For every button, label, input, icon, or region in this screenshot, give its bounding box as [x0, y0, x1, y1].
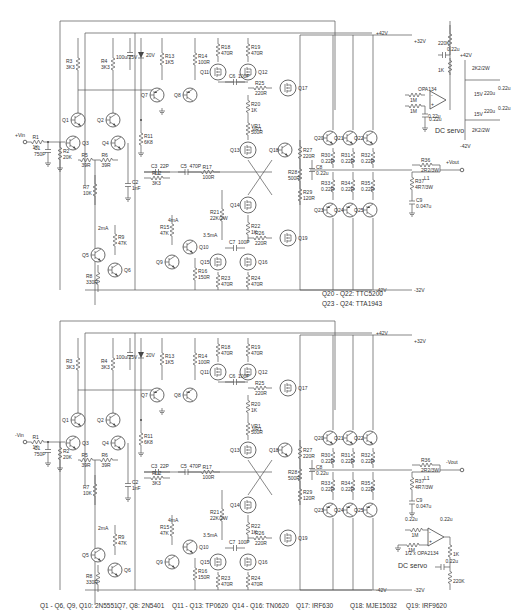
- capacitor-value: 100P: [238, 539, 250, 545]
- resistor-ref: R25: [255, 380, 264, 386]
- resistor-value: 6K8: [144, 139, 153, 145]
- resistor-value: 500R: [288, 175, 300, 181]
- resistor-ref: R36: [421, 157, 430, 163]
- device-note: Q20 - Q22: TTC5200: [322, 290, 383, 298]
- capacitor-ref: C6: [229, 73, 236, 79]
- resistor-value: 1K5: [165, 359, 174, 365]
- transistor-ref: Q24: [334, 207, 344, 213]
- opamp-label: 1/2 x OPA2134: [405, 550, 439, 556]
- terminal-icon[interactable]: [23, 140, 27, 144]
- pot-ref: VR1: [252, 126, 262, 132]
- current-label: 3.5mA: [203, 232, 218, 238]
- resistor-ref: R12: [152, 470, 161, 476]
- resistor-value: 20K: [63, 154, 73, 160]
- mosfet-ref: Q13: [230, 447, 240, 453]
- resistor-value: 470R: [251, 50, 263, 56]
- resistor-ref: R17: [203, 164, 212, 170]
- device-note: Q11 - Q13: TP0620: [172, 602, 229, 610]
- dc-servo-label: DC servo: [435, 127, 464, 134]
- capacitor-value: 100u/25V: [116, 54, 138, 60]
- resistor-value: 0.22R: [341, 486, 355, 492]
- mosfet-ref: Q12: [258, 69, 268, 75]
- cap-value: 0.22u: [440, 516, 453, 522]
- resistor-value: 39R: [102, 162, 112, 168]
- capacitor-value: 0.047u: [416, 503, 432, 509]
- inductor-ref: L1: [424, 475, 430, 481]
- zener-value: 15V: [474, 111, 484, 117]
- transistor-ref: Q23: [314, 207, 324, 213]
- resistor-value: 470R: [221, 581, 233, 587]
- transistor-ref: Q20: [314, 135, 324, 141]
- resistor-value: 220K: [453, 578, 465, 584]
- transistor-ref: Q23: [314, 507, 324, 513]
- mosfet-ref: Q16: [258, 559, 268, 565]
- transistor-ref: Q10: [199, 544, 209, 550]
- resistor-value: 470R: [251, 350, 263, 356]
- resistor-value: 0.22R: [361, 158, 375, 164]
- resistor-value: 4R7/3W: [415, 184, 433, 190]
- input-label: -Vin: [15, 432, 24, 438]
- resistor-value: 10K: [83, 490, 93, 496]
- capacitor-value: 100P: [238, 239, 250, 245]
- mosfet-ref: Q11: [200, 69, 209, 75]
- schematic: +42V-42V+32V-32V+VinR11KC1750PR220KQ1Q2Q…: [0, 0, 522, 616]
- transistor-ref: Q9: [156, 559, 163, 565]
- transistor-ref: Q22: [354, 135, 364, 141]
- resistor-value: 100R: [198, 59, 210, 65]
- dc-servo-bottom: 0.22u0.22u1M1M-+1K1/2 x OPA2134DC servo0…: [395, 516, 465, 590]
- transistor-ref: Q4: [102, 440, 109, 446]
- plus: +: [429, 538, 432, 544]
- output-label: +Vout: [446, 159, 460, 165]
- resistor-value: 22K/2W: [210, 215, 228, 221]
- resistor-value: 470R: [251, 281, 263, 287]
- transistor-ref: Q7: [141, 392, 148, 398]
- resistor-value: 150R: [198, 574, 210, 580]
- capacitor-value: 1nF: [132, 485, 141, 491]
- resistor-value: 1K5: [165, 59, 174, 65]
- capacitor-value: 0.22u: [447, 46, 460, 52]
- resistor-value: 3K3: [101, 64, 110, 70]
- capacitor-value: 470P: [190, 463, 202, 469]
- output-label: -Vout: [446, 459, 458, 465]
- resistor-value: 39R: [82, 162, 92, 168]
- mosfet-ref: Q13: [230, 147, 240, 153]
- resistor-value: 0.22R: [361, 458, 375, 464]
- terminal-icon[interactable]: [460, 468, 464, 472]
- mosfet-ref: Q17: [298, 385, 308, 391]
- transistor-ref: Q1: [62, 117, 69, 123]
- terminal-icon[interactable]: [460, 168, 464, 172]
- transistor-ref: Q18: [269, 147, 279, 153]
- resistor-value: 1K: [453, 551, 460, 557]
- resistor-value: 20K: [63, 454, 73, 460]
- resistor-value: 10K: [83, 190, 93, 196]
- mosfet-ref: Q14: [230, 202, 240, 208]
- device-note: Q18: MJE15032: [350, 602, 397, 610]
- resistor-value: 100R: [203, 474, 215, 480]
- cap-value: 0.22u: [498, 85, 511, 91]
- rail-neg-out-label: -32V: [414, 287, 425, 293]
- resistor-value: 220R: [255, 540, 267, 546]
- resistor-value: 3K3: [66, 364, 75, 370]
- resistor-value: 1M: [412, 532, 419, 538]
- resistor-value: 47K: [118, 240, 128, 246]
- resistor-value: 470R: [221, 50, 233, 56]
- resistor-value: 0.22R: [361, 486, 375, 492]
- resistor-value: 3K3: [66, 64, 75, 70]
- transistor-ref: Q20: [314, 435, 324, 441]
- terminal-icon[interactable]: [23, 440, 27, 444]
- resistor-ref: R25: [255, 80, 264, 86]
- resistor-value: 330R: [86, 279, 98, 285]
- transistor-ref: Q2: [97, 417, 104, 423]
- current-label: 2mA: [98, 225, 109, 231]
- device-note: Q17: IRF630: [296, 602, 334, 610]
- capacitor-value: 750P: [34, 151, 46, 157]
- top-channel: +42V-42V+32V-32V+VinR11KC1750PR220KQ1Q2Q…: [15, 21, 464, 305]
- transistor-ref: Q22: [354, 435, 364, 441]
- current-label: 3.5mA: [203, 532, 218, 538]
- resistor-value: 0.22R: [321, 186, 335, 192]
- resistor-value: 220R: [255, 240, 267, 246]
- resistor-ref: R1: [33, 434, 40, 440]
- resistor-value: 150R: [198, 274, 210, 280]
- transistor-ref: Q5: [82, 252, 89, 258]
- res-value: 2K2/2W: [472, 65, 490, 71]
